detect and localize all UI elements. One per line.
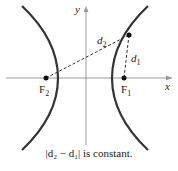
caption: |d₂ − d₁| is constant. [0,147,178,159]
d2-segment [46,35,129,78]
hyperbola-diagram: y x d2 d1 F2 F1 [0,0,178,171]
focus-f2 [44,76,49,81]
point-p [127,33,132,38]
y-axis-label: y [74,3,80,15]
x-axis-label: x [164,80,170,92]
d1-segment [124,35,129,78]
label-d1: d1 [131,52,141,67]
label-d2: d2 [97,34,107,49]
y-axis-arrow-icon [84,6,89,12]
focus-f1 [122,76,127,81]
label-f1: F1 [121,83,131,98]
label-f2: F2 [39,83,49,98]
